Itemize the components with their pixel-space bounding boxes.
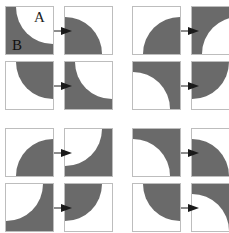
quarter-circle-shape bbox=[133, 129, 180, 176]
quarter-circle-shape bbox=[133, 184, 180, 231]
arrow-right-icon bbox=[54, 26, 72, 36]
quarter-circle-shape bbox=[65, 129, 112, 176]
label-a: A bbox=[34, 10, 45, 25]
quarter-circle-shape bbox=[6, 62, 53, 109]
arrow-right-icon bbox=[54, 203, 72, 213]
bottom-left-tile-before-2 bbox=[5, 183, 54, 232]
quarter-circle-shape bbox=[6, 129, 53, 176]
quarter-circle-shape bbox=[133, 62, 180, 109]
arrow-right-icon bbox=[54, 81, 72, 91]
arrow-right-icon bbox=[181, 81, 199, 91]
quarter-circle-shape bbox=[65, 184, 112, 231]
quarter-circle-shape bbox=[133, 7, 180, 54]
arrow-right-icon bbox=[181, 203, 199, 213]
top-right-tile-before-1 bbox=[132, 6, 181, 55]
top-right-tile-before-2 bbox=[132, 61, 181, 110]
arrow-right-icon bbox=[54, 148, 72, 158]
label-b: B bbox=[12, 38, 22, 53]
bottom-right-tile-before-2 bbox=[132, 183, 181, 232]
arrow-right-icon bbox=[181, 26, 199, 36]
bottom-right-tile-before-1 bbox=[132, 128, 181, 177]
quarter-circle-shape bbox=[6, 184, 53, 231]
arrow-right-icon bbox=[181, 148, 199, 158]
quarter-circle-shape bbox=[65, 62, 112, 109]
quarter-circle-shape bbox=[65, 7, 112, 54]
bottom-left-tile-before-1 bbox=[5, 128, 54, 177]
top-left-tile-before-2 bbox=[5, 61, 54, 110]
